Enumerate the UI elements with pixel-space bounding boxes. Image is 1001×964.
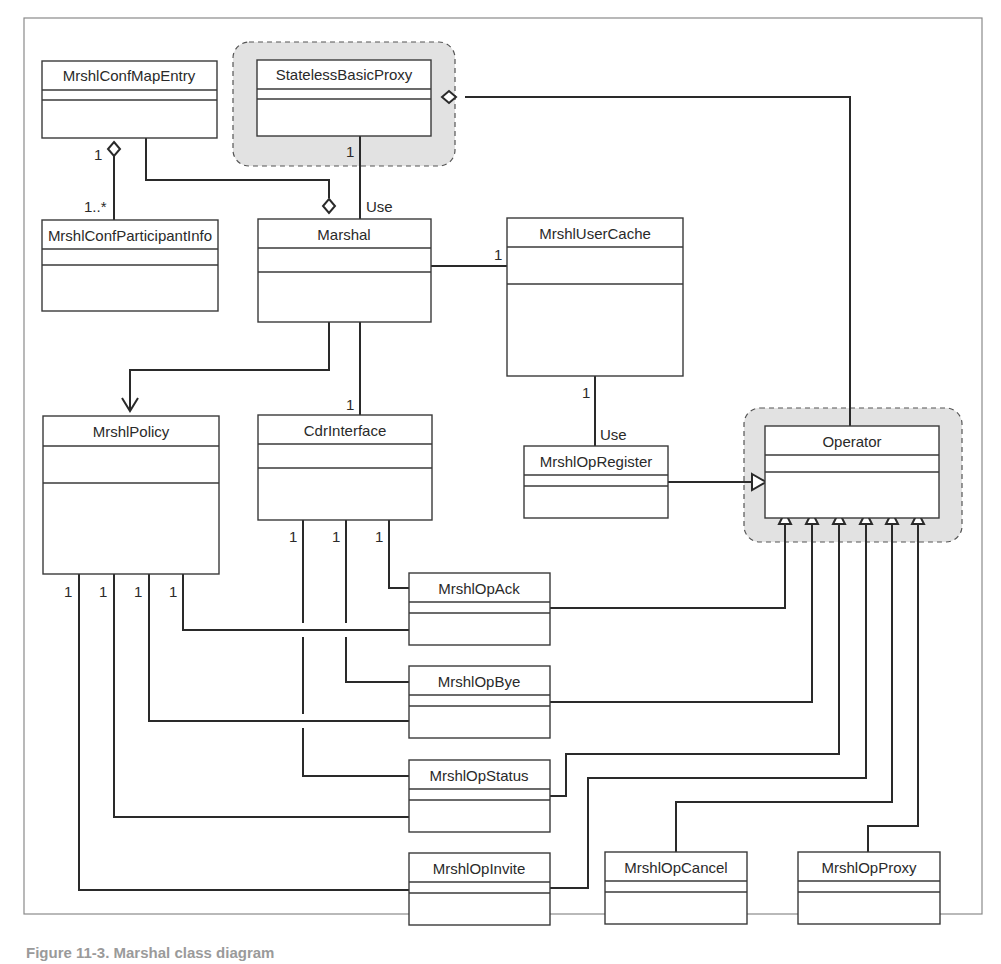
multiplicity-label: 1 (64, 583, 72, 600)
class-title: MrshlOpRegister (540, 453, 653, 470)
class-title: MrshlPolicy (93, 423, 170, 440)
multiplicity-label: 1 (169, 583, 177, 600)
multiplicity-label: 1..* (84, 198, 107, 215)
figure-caption: Figure 11-3. Marshal class diagram (26, 944, 274, 961)
class-title: MrshlOpBye (438, 673, 521, 690)
multiplicity-label: 1 (134, 583, 142, 600)
multiplicity-label: 1 (346, 396, 354, 413)
class-title: StatelessBasicProxy (276, 66, 413, 83)
class-title: MrshlUserCache (539, 225, 651, 242)
class-title: MrshlConfMapEntry (63, 67, 196, 84)
role-label: Use (600, 426, 627, 443)
multiplicity-label: 1 (375, 528, 383, 545)
multiplicity-label: 1 (332, 528, 340, 545)
multiplicity-label: 1 (289, 528, 297, 545)
uml-class-diagram: MrshlConfMapEntry StatelessBasicProxy Mr… (0, 0, 1001, 964)
role-label: Use (366, 198, 393, 215)
class-title: MrshlConfParticipantInfo (48, 227, 212, 244)
multiplicity-label: 1 (346, 143, 354, 160)
diamond-icon (108, 142, 120, 156)
class-title: MrshlOpInvite (433, 860, 526, 877)
diamond-icon (323, 199, 335, 213)
multiplicity-label: 1 (494, 246, 502, 263)
class-title: Marshal (317, 226, 370, 243)
class-title: Operator (822, 433, 881, 450)
multiplicity-label: 1 (99, 583, 107, 600)
multiplicity-label: 1 (582, 384, 590, 401)
multiplicity-label: 1 (94, 146, 102, 163)
class-title: CdrInterface (304, 422, 387, 439)
class-title: MrshlOpStatus (429, 767, 528, 784)
class-title: MrshlOpCancel (624, 859, 727, 876)
class-title: MrshlOpProxy (821, 859, 917, 876)
class-title: MrshlOpAck (438, 580, 520, 597)
